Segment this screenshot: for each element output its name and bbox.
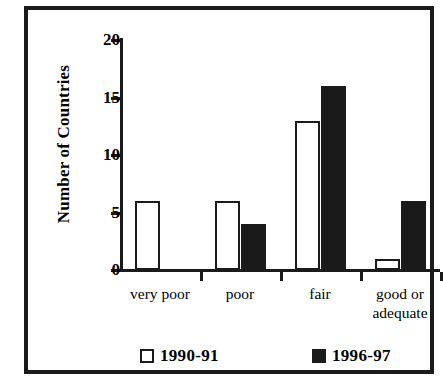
x-category-separator bbox=[280, 272, 283, 281]
y-tick-label: 15 bbox=[84, 89, 120, 106]
x-axis-label-line: fair bbox=[280, 284, 360, 303]
bar-1996-97-fair bbox=[321, 86, 346, 270]
x-category-separator bbox=[200, 272, 203, 281]
x-axis-label-fair: fair bbox=[280, 284, 360, 303]
x-axis-label-good or adequate: good oradequate bbox=[360, 284, 440, 322]
bar-1990-91-very poor bbox=[135, 201, 160, 270]
y-tick-label: 0 bbox=[84, 261, 120, 278]
x-axis-label-line: very poor bbox=[120, 284, 200, 303]
y-tick-label: 10 bbox=[84, 146, 120, 163]
x-axis-label-line: adequate bbox=[360, 303, 440, 322]
bar-1990-91-good or adequate bbox=[375, 259, 400, 271]
figure-border: Number of Countries 05101520 very poorpo… bbox=[24, 6, 434, 374]
legend-item-1996-97: 1996-97 bbox=[312, 346, 391, 366]
chart-legend: 1990-911996-97 bbox=[120, 346, 440, 374]
bar-1990-91-poor bbox=[215, 201, 240, 270]
x-axis-label-very poor: very poor bbox=[120, 284, 200, 303]
bar-1996-97-poor bbox=[241, 224, 266, 270]
bar-1990-91-fair bbox=[295, 121, 320, 271]
x-axis-label-poor: poor bbox=[200, 284, 280, 303]
bar-1996-97-good or adequate bbox=[401, 201, 426, 270]
x-axis-label-line: good or bbox=[360, 284, 440, 303]
y-tick-label: 5 bbox=[84, 204, 120, 221]
legend-swatch-open-square-icon bbox=[140, 349, 154, 363]
x-axis-labels: very poorpoorfairgood oradequate bbox=[120, 284, 440, 330]
legend-label: 1990-91 bbox=[160, 346, 219, 366]
bars-area bbox=[120, 40, 440, 270]
legend-item-1990-91: 1990-91 bbox=[140, 346, 219, 366]
y-axis-ticks: 05101520 bbox=[28, 10, 120, 310]
x-axis-label-line: poor bbox=[200, 284, 280, 303]
legend-swatch-filled-square-icon bbox=[312, 349, 326, 363]
y-tick-label: 20 bbox=[84, 31, 120, 48]
x-category-separator bbox=[360, 272, 363, 281]
legend-label: 1996-97 bbox=[332, 346, 391, 366]
